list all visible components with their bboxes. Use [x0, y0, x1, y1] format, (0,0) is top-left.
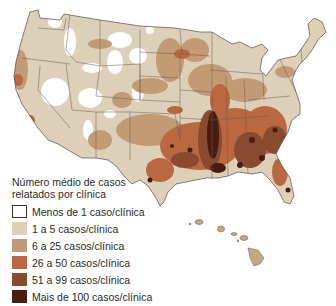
legend-swatch-4 [12, 273, 27, 286]
legend-item-51-to-99: 51 a 99 casos/clínica [12, 271, 182, 288]
legend-title: Número médio de casos relatados por clín… [12, 176, 182, 200]
legend-item-more-than-100: Mais de 100 casos/clínica [12, 288, 182, 305]
hawaii-inset [189, 220, 264, 267]
legend-swatch-1 [12, 222, 27, 235]
legend-title-line2: relatados por clínica [12, 188, 182, 200]
legend-label: Menos de 1 caso/clínica [32, 206, 145, 218]
legend-label: 6 a 25 casos/clínica [32, 240, 124, 252]
legend-swatch-2 [12, 239, 27, 252]
legend-item-26-to-50: 26 a 50 casos/clínica [12, 254, 182, 271]
legend-swatch-0 [12, 205, 27, 218]
legend-swatch-5 [12, 290, 27, 303]
legend-title-line1: Número médio de casos [12, 176, 182, 188]
map-legend: Número médio de casos relatados por clín… [12, 176, 182, 305]
legend-item-1-to-5: 1 a 5 casos/clínica [12, 220, 182, 237]
legend-item-less-than-1: Menos de 1 caso/clínica [12, 203, 182, 220]
legend-label: 1 a 5 casos/clínica [32, 223, 118, 235]
legend-label: Mais de 100 casos/clínica [32, 291, 152, 303]
legend-label: 51 a 99 casos/clínica [32, 274, 130, 286]
legend-item-6-to-25: 6 a 25 casos/clínica [12, 237, 182, 254]
legend-swatch-3 [12, 256, 27, 269]
legend-label: 26 a 50 casos/clínica [32, 257, 130, 269]
